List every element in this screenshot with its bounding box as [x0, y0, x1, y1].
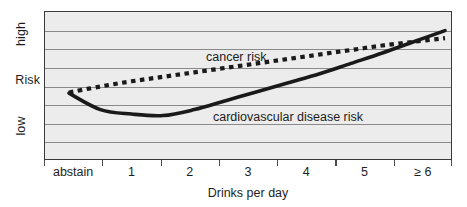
- annotation-cancer-risk: cancer risk: [206, 50, 266, 64]
- x-axis-tick-label: 2: [186, 165, 193, 179]
- x-axis-tick-label: 5: [361, 165, 368, 179]
- x-axis-tick-label: 4: [303, 165, 310, 179]
- x-axis-tick-label: 1: [128, 165, 135, 179]
- x-axis-title: Drinks per day: [44, 186, 452, 200]
- y-axis-label-risk: Risk: [2, 72, 40, 88]
- x-axis-tick-label: 3: [245, 165, 252, 179]
- x-axis-labels: abstain12345≥ 6: [44, 165, 452, 183]
- y-axis-label-high: high: [5, 15, 37, 53]
- x-axis-tick-label: abstain: [53, 165, 93, 179]
- cardiovascular-disease-risk-line: [69, 31, 445, 116]
- series-layer: [45, 12, 452, 160]
- x-axis-tick-label: ≥ 6: [414, 165, 431, 179]
- y-axis-label-low: low: [5, 107, 37, 145]
- plot-area: cancer risk cardiovascular disease risk: [44, 11, 452, 160]
- risk-vs-drinks-chart: high Risk low cancer risk cardiovascular…: [0, 0, 467, 207]
- annotation-cardiovascular-disease-risk: cardiovascular disease risk: [213, 110, 363, 124]
- cancer-risk-line: [69, 38, 445, 92]
